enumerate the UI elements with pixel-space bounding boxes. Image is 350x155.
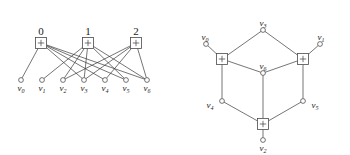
- variable-node-label: v2: [60, 83, 67, 94]
- variable-label-sub: 0: [22, 88, 25, 94]
- edge-r2-v5: [269, 102, 301, 121]
- variable-node-v2[interactable]: v2: [260, 138, 267, 154]
- variable-node-label: v4: [207, 100, 214, 111]
- edge-r0-v6: [228, 61, 261, 72]
- variable-circle[interactable]: [261, 138, 266, 143]
- check-node-r2[interactable]: [258, 119, 269, 130]
- variable-label-sub: 1: [322, 37, 325, 43]
- variable-label-sub: 6: [264, 66, 267, 72]
- check-node-label: 2: [133, 25, 139, 37]
- variable-circle[interactable]: [124, 78, 129, 83]
- variable-circle[interactable]: [220, 99, 225, 104]
- variable-circle[interactable]: [40, 78, 45, 83]
- figure-canvas: 012v0v1v2v3v4v5v6v0v1v2v3v4v5v6: [0, 0, 350, 155]
- edge-c1-v5: [94, 48, 125, 78]
- variable-label-sub: 1: [43, 88, 46, 94]
- edge-r1-v6: [265, 61, 297, 72]
- check-node-r0[interactable]: [217, 54, 228, 65]
- variable-label-sub: 3: [84, 88, 88, 94]
- edge-r1-v1: [309, 46, 319, 55]
- variable-circle[interactable]: [82, 78, 87, 83]
- variable-node-label: v6: [260, 61, 267, 72]
- variable-label-sub: 3: [263, 23, 267, 29]
- variable-node-v3[interactable]: v3: [260, 18, 267, 32]
- left-edges: [22, 45, 146, 79]
- variable-node-label: v4: [102, 83, 109, 94]
- variable-node-label: v5: [312, 100, 319, 111]
- variable-circle[interactable]: [103, 78, 108, 83]
- check-node-c2[interactable]: 2: [131, 25, 142, 49]
- variable-label-sub: 6: [148, 88, 151, 94]
- variable-node-label: v5: [123, 83, 130, 94]
- edge-c0-v0: [22, 49, 38, 78]
- variable-label-sub: 4: [211, 105, 214, 111]
- variable-node-label: v3: [260, 18, 267, 29]
- variable-node-v5[interactable]: v5: [123, 78, 130, 94]
- variable-node-label: v1: [318, 32, 325, 43]
- variable-node-v0[interactable]: v0: [18, 78, 25, 94]
- check-node-c0[interactable]: 0: [36, 25, 47, 49]
- edge-c2-v4: [107, 49, 132, 79]
- variable-circle[interactable]: [61, 78, 66, 83]
- edge-c2-v3: [86, 47, 131, 79]
- check-node-label: 0: [38, 25, 44, 37]
- variable-label-sub: 4: [106, 88, 109, 94]
- edge-c1-v2: [64, 49, 84, 79]
- variable-node-label: v0: [202, 32, 209, 43]
- variable-node-label: v1: [39, 83, 46, 94]
- variable-node-v1[interactable]: v1: [39, 78, 46, 94]
- check-node-r1[interactable]: [298, 54, 309, 65]
- variable-node-label: v6: [144, 83, 151, 94]
- variable-node-v0[interactable]: v0: [202, 32, 209, 46]
- edge-r2-v4: [224, 102, 257, 121]
- variable-label-sub: 2: [64, 88, 67, 94]
- variable-node-v1[interactable]: v1: [318, 32, 325, 46]
- check-node-label: 1: [85, 25, 91, 37]
- variable-node-v4[interactable]: v4: [207, 99, 225, 111]
- variable-circle[interactable]: [145, 78, 150, 83]
- variable-node-v3[interactable]: v3: [81, 78, 88, 94]
- variable-circle[interactable]: [19, 78, 24, 83]
- variable-label-sub: 0: [206, 37, 209, 43]
- variable-label-sub: 5: [127, 88, 130, 94]
- check-node-c1[interactable]: 1: [83, 25, 94, 49]
- variable-circle[interactable]: [301, 99, 306, 104]
- edge-c2-v6: [138, 49, 147, 78]
- edge-r0-v3: [228, 31, 262, 55]
- variable-node-v6[interactable]: v6: [260, 61, 267, 75]
- variable-label-sub: 2: [264, 148, 267, 154]
- variable-node-v2[interactable]: v2: [60, 78, 67, 94]
- figure-root: 012v0v1v2v3v4v5v6v0v1v2v3v4v5v6: [0, 0, 350, 155]
- variable-node-label: v3: [81, 83, 88, 94]
- variable-node-label: v0: [18, 83, 25, 94]
- edge-r0-v0: [208, 46, 217, 54]
- cube-drawing: v0v1v2v3v4v5v6: [202, 18, 325, 154]
- variable-node-v4[interactable]: v4: [102, 78, 109, 94]
- variable-node-v6[interactable]: v6: [144, 78, 151, 94]
- variable-label-sub: 5: [316, 105, 319, 111]
- edge-r1-v3: [265, 31, 298, 55]
- variable-node-label: v2: [260, 143, 267, 154]
- edge-c0-v5: [47, 45, 124, 79]
- bipartite-factor-graph: 012v0v1v2v3v4v5v6: [18, 25, 151, 94]
- variable-node-v5[interactable]: v5: [301, 99, 319, 111]
